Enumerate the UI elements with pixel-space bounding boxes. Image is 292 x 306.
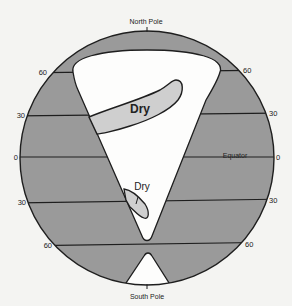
equator-label: Equator <box>223 152 248 160</box>
lat-label-left-0: 0 <box>14 153 18 162</box>
lat-label-right-0: 0 <box>276 153 280 162</box>
lat-label-right-30s: 30 <box>269 196 277 205</box>
lat-label-right-60n: 60 <box>243 66 251 75</box>
lat-label-left-60n: 60 <box>39 68 47 77</box>
lat-label-right-60s: 60 <box>245 240 253 249</box>
globe-diagram: North Pole South Pole Equator Dry Dry 60… <box>0 0 292 306</box>
north-pole-label: North Pole <box>129 18 162 25</box>
dry-label-north: Dry <box>130 102 150 116</box>
lat-label-right-30n: 30 <box>269 109 277 118</box>
south-pole-label: South Pole <box>130 293 164 300</box>
lat-label-left-60s: 60 <box>44 241 52 250</box>
lat-label-left-30s: 30 <box>18 198 26 207</box>
dry-label-south: Dry <box>134 181 150 192</box>
lat-label-left-30n: 30 <box>17 111 25 120</box>
